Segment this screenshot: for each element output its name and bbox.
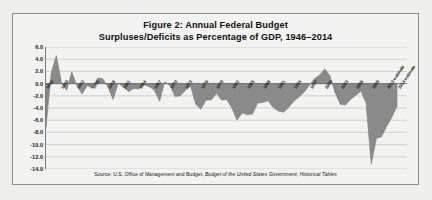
chart-plot-area: [45, 47, 407, 169]
y-tick-label: 0.0: [35, 81, 43, 87]
chart-plot-wrapper: 6.04.02.00.0-2.0-4.0-6.0-8.0-10.0-12.0-1…: [13, 47, 420, 169]
source-prefix: Source: U.S. Office of Management and Bu…: [94, 171, 205, 177]
y-tick-label: -12.0: [30, 154, 43, 160]
y-tick-label: -10.0: [30, 142, 43, 148]
figure-panel: Figure 2: Annual Federal Budget Surpluse…: [12, 13, 419, 185]
page-title: Figure 2: Annual Federal Budget Surpluse…: [13, 19, 418, 43]
y-tick-label: 2.0: [35, 68, 43, 74]
y-axis-tick-labels: 6.04.02.00.0-2.0-4.0-6.0-8.0-10.0-12.0-1…: [13, 47, 45, 169]
y-tick-label: -4.0: [33, 105, 43, 111]
y-tick-label: 4.0: [35, 56, 43, 62]
y-tick-label: 6.0: [35, 44, 43, 50]
source-note: Source: U.S. Office of Management and Bu…: [13, 171, 418, 177]
y-tick-label: -2.0: [33, 93, 43, 99]
y-tick-label: -6.0: [33, 117, 43, 123]
area-chart-svg: [46, 47, 407, 169]
title-line-2: Surpluses/Deficits as Percentage of GDP,…: [13, 31, 418, 43]
y-tick-label: -8.0: [33, 129, 43, 135]
title-line-1: Figure 2: Annual Federal Budget: [13, 19, 418, 31]
source-italic: Budget of the United States Government, …: [205, 171, 337, 177]
deficit-area-series: [46, 56, 397, 165]
